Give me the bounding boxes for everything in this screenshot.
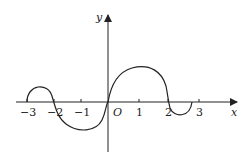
origin-label: O	[113, 106, 122, 119]
tick-label-3: 3	[196, 106, 203, 119]
function-curve	[27, 67, 192, 130]
tick-label-1: 1	[136, 106, 143, 119]
y-axis-label: y	[95, 11, 103, 24]
tick-label-neg2: −2	[47, 106, 63, 119]
x-axis-label: x	[231, 106, 238, 119]
tick-label-neg3: −3	[20, 106, 36, 119]
tick-label-2: 2	[165, 106, 172, 119]
function-graph: −3 −2 −1 O 1 2 3 x y	[0, 0, 250, 160]
tick-label-neg1: −1	[74, 106, 90, 119]
